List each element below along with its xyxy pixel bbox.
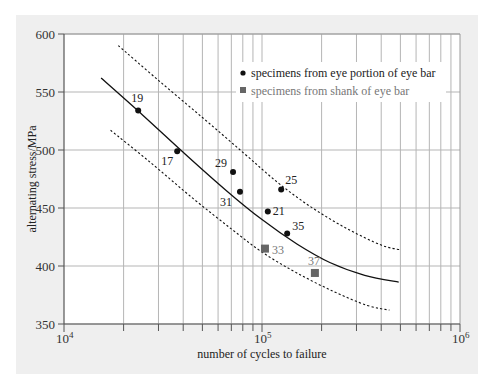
legend-label-shank: specimens from shank of eye bar: [251, 84, 409, 98]
point-label: 35: [292, 219, 304, 233]
legend-square-icon: [240, 87, 246, 93]
y-tick-label: 550: [36, 85, 56, 100]
x-tick-label: 106: [452, 330, 470, 346]
legend-label-eye: specimens from eye portion of eye bar: [251, 66, 436, 80]
data-point-square: [311, 269, 319, 277]
sn-chart: 350400450500550600104105106 specimens fr…: [0, 0, 493, 388]
point-label: 37: [308, 254, 320, 268]
point-label: 19: [131, 91, 143, 105]
y-tick-label: 350: [36, 317, 56, 332]
y-tick-label: 600: [36, 27, 56, 42]
data-point-circle: [278, 186, 284, 192]
data-point-circle: [284, 231, 290, 237]
x-tick-label: 104: [56, 330, 74, 346]
point-label: 21: [273, 204, 285, 218]
point-label: 17: [161, 154, 173, 168]
data-point-circle: [265, 208, 271, 214]
point-label: 31: [220, 195, 232, 209]
x-axis-title: number of cycles to failure: [197, 347, 326, 361]
point-label: 33: [272, 243, 284, 257]
data-point-circle: [174, 148, 180, 154]
point-label: 25: [285, 173, 297, 187]
x-tick-label: 105: [254, 330, 272, 346]
legend-circle-icon: [240, 70, 245, 75]
y-axis-title: alternating stress/MPa: [25, 125, 39, 233]
data-point-square: [261, 245, 269, 253]
data-point-circle: [230, 169, 236, 175]
data-point-circle: [237, 189, 243, 195]
data-point-circle: [135, 108, 141, 114]
point-label: 29: [215, 156, 227, 170]
legend: specimens from eye portion of eye barspe…: [236, 62, 446, 102]
y-tick-label: 400: [36, 259, 56, 274]
